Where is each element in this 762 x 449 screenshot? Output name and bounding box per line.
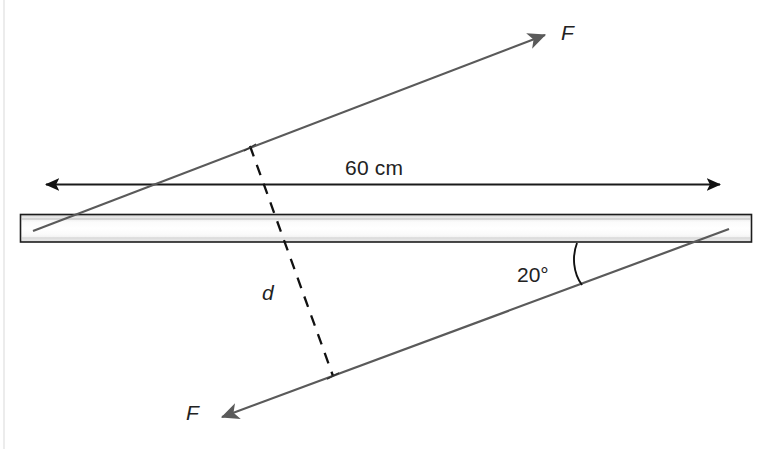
force-label-top: F [561, 22, 574, 43]
force-vector-bottom [222, 229, 729, 417]
bar-length-label: 60 cm [345, 157, 403, 178]
force-arrow-top-line [33, 35, 545, 231]
perpendicular-distance-d [244, 144, 339, 379]
force-vector-top [33, 35, 545, 231]
angle-label: 20° [517, 264, 549, 285]
dashed-line-d [250, 146, 333, 376]
d-tick-top [244, 144, 256, 151]
force-arrow-bottom-line [222, 229, 729, 417]
angle-arc-20deg [574, 243, 582, 285]
bar-shade-top [22, 218, 750, 220]
angle-arc-path [574, 243, 582, 285]
bar-shade-bottom [22, 237, 750, 240]
physics-diagram-figure: F F d 60 cm 20° [0, 0, 762, 449]
force-label-bottom: F [186, 402, 199, 423]
bar-body [21, 215, 752, 243]
distance-label-d: d [262, 282, 274, 303]
diagram-canvas [0, 0, 762, 449]
